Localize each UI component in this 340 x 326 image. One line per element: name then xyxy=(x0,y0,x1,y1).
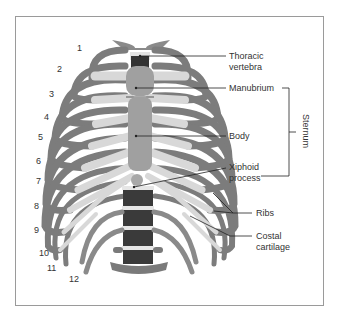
rib-number-7: 7 xyxy=(36,176,41,186)
rib-number-8: 8 xyxy=(34,201,39,211)
xiphoid-process xyxy=(131,174,143,186)
rib-number-4: 4 xyxy=(44,112,49,122)
manubrium xyxy=(126,66,154,96)
label-ribs: Ribs xyxy=(256,208,274,219)
rib-number-10: 10 xyxy=(39,248,49,258)
rib-number-3: 3 xyxy=(49,89,54,99)
label-body: Body xyxy=(229,131,250,142)
label-thoracic-vertebra: Thoracic vertebra xyxy=(229,51,264,73)
label-sternum: Sternum xyxy=(301,114,311,148)
rib-cage-illustration xyxy=(0,0,340,326)
rib-number-5: 5 xyxy=(38,132,43,142)
label-xiphoid-process: Xiphoid process xyxy=(229,162,261,184)
sternum-body xyxy=(128,97,152,171)
rib-number-12: 12 xyxy=(69,274,79,284)
label-manubrium: Manubrium xyxy=(229,83,274,94)
rib-number-2: 2 xyxy=(57,64,62,74)
label-costal-cartilage: Costal cartilage xyxy=(256,231,290,253)
rib-number-11: 11 xyxy=(47,263,56,273)
rib-number-6: 6 xyxy=(36,156,41,166)
rib-number-9: 9 xyxy=(34,225,39,235)
rib-number-1: 1 xyxy=(77,43,82,53)
